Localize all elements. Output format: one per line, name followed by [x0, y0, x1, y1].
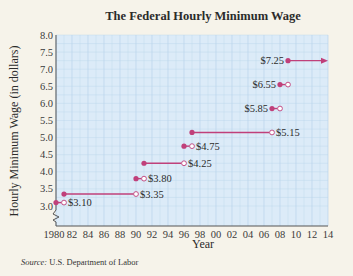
y-tick-label: 7.5	[40, 47, 53, 58]
x-tick-label: 14	[323, 229, 334, 240]
wage-chart: The Federal Hourly Minimum Wage 3.03.54.…	[0, 0, 353, 250]
value-label: $3.80	[148, 173, 172, 184]
y-axis-label: Hourly Minimum Wage (in dollars)	[7, 46, 21, 217]
open-endpoint	[182, 161, 187, 166]
x-tick-label: 1980	[44, 229, 65, 240]
x-axis-label: Year	[192, 237, 214, 250]
closed-endpoint	[133, 176, 138, 181]
closed-endpoint	[285, 58, 290, 63]
closed-endpoint	[141, 161, 146, 166]
source-text: U.S. Department of Labor	[47, 257, 138, 267]
x-tick-label: 88	[115, 229, 126, 240]
y-tick-label: 3.5	[40, 183, 53, 194]
closed-endpoint	[181, 144, 186, 149]
value-label: $4.75	[196, 141, 220, 152]
y-tick-label: 5.5	[40, 115, 53, 126]
x-tick-label: 84	[83, 229, 94, 240]
open-endpoint	[62, 200, 67, 205]
x-tick-label: 10	[291, 229, 302, 240]
value-label: $5.85	[244, 103, 268, 114]
y-tick-label: 7.0	[40, 64, 53, 75]
closed-endpoint	[61, 191, 66, 196]
open-endpoint	[286, 82, 291, 87]
open-endpoint	[270, 130, 275, 135]
value-label: $4.25	[188, 158, 212, 169]
value-label: $3.35	[140, 189, 164, 200]
value-label: $7.25	[260, 55, 284, 66]
y-tick-label: 8.0	[40, 30, 53, 41]
y-tick-label: 6.0	[40, 98, 53, 109]
chart-title: The Federal Hourly Minimum Wage	[105, 9, 301, 23]
x-tick-label: 82	[67, 229, 78, 240]
y-tick-label: 4.0	[40, 166, 53, 177]
closed-endpoint	[277, 82, 282, 87]
open-endpoint	[134, 192, 139, 197]
y-tick-label: 6.5	[40, 81, 53, 92]
x-tick-label: 92	[147, 229, 158, 240]
source-prefix: Source:	[21, 257, 47, 267]
y-axis-ticks: 3.03.54.04.55.05.56.06.57.07.58.0	[40, 30, 53, 212]
x-tick-label: 12	[307, 229, 318, 240]
closed-endpoint	[53, 200, 58, 205]
value-label: $5.15	[276, 127, 300, 138]
open-endpoint	[278, 106, 283, 111]
open-endpoint	[190, 144, 195, 149]
y-tick-label: 4.5	[40, 149, 53, 160]
x-tick-label: 06	[259, 229, 270, 240]
x-tick-label: 08	[275, 229, 286, 240]
closed-endpoint	[269, 106, 274, 111]
open-endpoint	[142, 176, 147, 181]
x-tick-label: 86	[99, 229, 110, 240]
source-note: Source: U.S. Department of Labor	[21, 257, 138, 267]
x-tick-label: 96	[179, 229, 190, 240]
x-tick-label: 90	[131, 229, 142, 240]
x-tick-label: 02	[227, 229, 238, 240]
y-tick-label: 5.0	[40, 132, 53, 143]
x-tick-label: 04	[243, 229, 254, 240]
value-label: $3.10	[68, 197, 92, 208]
x-tick-label: 94	[163, 229, 174, 240]
value-label: $6.55	[252, 79, 276, 90]
closed-endpoint	[189, 130, 194, 135]
y-tick-label: 3.0	[40, 201, 53, 212]
x-axis-ticks: 19808284868890929496980002040608101214	[44, 229, 335, 240]
